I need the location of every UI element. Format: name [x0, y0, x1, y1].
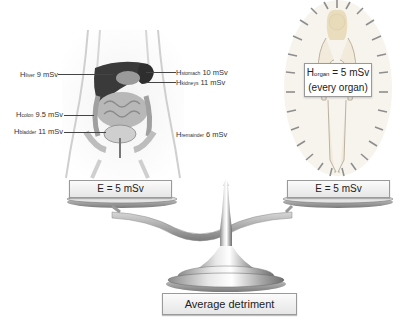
left-effective-dose-box: E = 5 mSv [69, 180, 172, 198]
stomach-dose-label: Hstomach 10 mSv [176, 68, 228, 78]
organ-dose-box: Horgan = 5 mSv (every organ) [304, 63, 372, 97]
remainder-dose-label: Hremainder 6 mSv [176, 130, 227, 140]
left-effective-dose-text: E = 5 mSv [97, 183, 143, 194]
average-detriment-box: Average detriment [162, 293, 297, 315]
right-effective-dose-text: E = 5 mSv [315, 183, 361, 194]
liver-dose-label: Hliver 9 mSv [20, 70, 58, 80]
organ-dose-note: (every organ) [305, 81, 371, 94]
kidneys-dose-label: Hkidneys 11 mSv [176, 78, 225, 88]
torso-illustration [62, 30, 184, 180]
colon-dose-label: Hcolon 9.5 mSv [16, 110, 63, 120]
liver-leader-line [58, 74, 113, 75]
colon-leader-line [64, 115, 94, 116]
average-detriment-text: Average detriment [185, 298, 275, 310]
right-effective-dose-box: E = 5 mSv [287, 180, 390, 198]
bladder-leader-line [64, 132, 106, 133]
kidneys-leader-line [146, 82, 176, 83]
stomach-leader-line [146, 72, 176, 73]
bladder-dose-label: Hbladder 11 mSv [14, 127, 63, 137]
diagram-graphics [0, 0, 402, 327]
